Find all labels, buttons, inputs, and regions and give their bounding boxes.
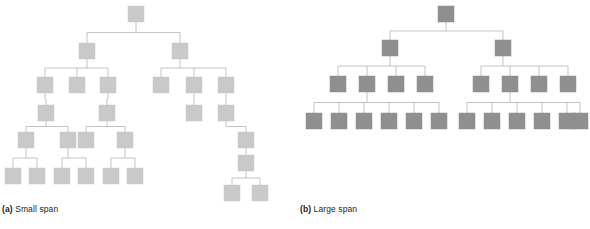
large-span-node [359, 76, 375, 92]
small-span-node [78, 132, 94, 148]
small-span-node [79, 43, 95, 59]
small-span-node [18, 132, 34, 148]
large-span-node [459, 113, 475, 129]
large-span-node [331, 113, 347, 129]
large-span-node [382, 40, 398, 56]
small-span-node [186, 105, 202, 121]
org-chart-figure [0, 0, 590, 229]
large-span-node [495, 40, 511, 56]
large-span-node [572, 113, 588, 129]
large-span-node [531, 76, 547, 92]
large-span-node [438, 6, 454, 22]
small-span-node [153, 77, 169, 93]
large-span-node [534, 113, 550, 129]
large-span-node [417, 76, 433, 92]
small-span-node [69, 77, 85, 93]
small-span-node [54, 168, 70, 184]
small-span-node [238, 132, 254, 148]
large-span-node [560, 76, 576, 92]
large-span-node [502, 76, 518, 92]
large-span-node [356, 113, 372, 129]
large-span-edges [314, 22, 580, 113]
caption-small-span: (a) Small span [2, 204, 58, 214]
small-span-node [60, 132, 76, 148]
caption-large-span-text: Large span [311, 204, 357, 214]
large-span-node [473, 76, 489, 92]
small-span-node [117, 132, 133, 148]
large-span-nodes [306, 6, 588, 129]
large-span-node [306, 113, 322, 129]
caption-large-span: (b) Large span [300, 204, 357, 214]
small-span-node [238, 155, 254, 171]
small-span-node [38, 105, 54, 121]
large-span-node [431, 113, 447, 129]
small-span-node [78, 168, 94, 184]
large-span-node [330, 76, 346, 92]
small-span-node [224, 185, 240, 201]
small-span-node [99, 105, 115, 121]
large-span-node [381, 113, 397, 129]
small-span-edge [226, 121, 246, 132]
small-span-node [128, 6, 144, 22]
caption-large-span-label: (b) [300, 204, 311, 214]
small-span-node [5, 168, 21, 184]
small-span-nodes [5, 6, 268, 201]
small-span-edges [13, 22, 260, 185]
small-span-node [186, 77, 202, 93]
small-span-node [218, 105, 234, 121]
small-span-node [127, 168, 143, 184]
caption-small-span-text: Small span [13, 204, 59, 214]
small-span-node [29, 168, 45, 184]
small-span-node [103, 168, 119, 184]
large-span-node [388, 76, 404, 92]
caption-small-span-label: (a) [2, 204, 13, 214]
large-span-node [406, 113, 422, 129]
small-span-node [100, 77, 116, 93]
small-span-node [252, 185, 268, 201]
small-span-node [172, 43, 188, 59]
small-span-edge [45, 93, 46, 105]
large-span-node [484, 113, 500, 129]
small-span-edge [107, 93, 108, 105]
small-span-node [37, 77, 53, 93]
large-span-node [509, 113, 525, 129]
small-span-node [218, 77, 234, 93]
